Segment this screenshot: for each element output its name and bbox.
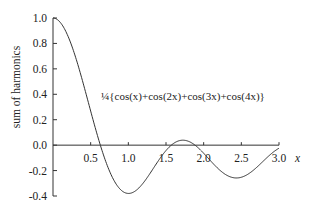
y-tick-label: 0.4 <box>33 88 48 100</box>
x-tick-label: 2.5 <box>234 152 249 164</box>
x-axis-title: x <box>294 152 301 164</box>
y-tick-label: -0.4 <box>29 190 47 202</box>
chart: 1.00.80.60.40.20.0-0.2-0.4 0.51.01.52.02… <box>0 0 315 210</box>
y-tick-label: -0.2 <box>29 165 47 177</box>
x-tick-label: 0.5 <box>83 152 98 164</box>
formula-annotation: ¼{cos(x)+cos(2x)+cos(3x)+cos(4x)} <box>101 90 265 103</box>
y-tick-label: 0.6 <box>33 63 48 75</box>
y-axis-title: sum of harmonics <box>10 45 22 128</box>
y-tick-label: 1.0 <box>33 12 48 24</box>
x-tick-label: 3.0 <box>272 152 287 164</box>
x-tick-label: 1.0 <box>121 152 136 164</box>
y-tick-label: 0.8 <box>33 37 48 49</box>
series-line-harmonic-sum <box>53 18 279 193</box>
x-tick-label: 1.5 <box>159 152 174 164</box>
y-tick-label: 0.2 <box>33 114 48 126</box>
y-tick-label: 0.0 <box>33 139 48 151</box>
